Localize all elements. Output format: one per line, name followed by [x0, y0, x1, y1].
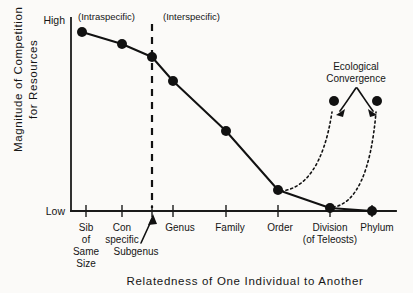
ecological-convergence-annotation: Ecological Convergence — [326, 61, 386, 117]
ecological-convergence-label-line2: Convergence — [326, 73, 386, 84]
point-division — [325, 203, 335, 213]
subgenus-pointer-label: Subgenus — [113, 246, 158, 257]
cat-label-division-line1: Division — [312, 222, 347, 233]
x-axis-title: Relatedness of One Individual to Another — [126, 275, 363, 287]
cat-label-phylum: Phylum — [360, 222, 393, 233]
point-genus — [168, 76, 178, 86]
competition-series-points — [77, 27, 377, 216]
figure-container: High Low Magnitude of Competition for Re… — [0, 0, 413, 293]
point-subgenus — [147, 52, 157, 62]
cat-label-con-line2: specific — [105, 234, 138, 245]
convergence-curve-right — [333, 112, 376, 207]
y-axis-title: Magnitude of Competition for Resources — [12, 7, 39, 152]
y-axis-high-label: High — [43, 14, 65, 26]
point-family — [221, 126, 231, 136]
point-convergence-right — [372, 96, 382, 106]
point-phylum — [367, 206, 377, 216]
point-convergence-left — [329, 96, 339, 106]
interspecific-region-label: (Interspecific) — [163, 11, 220, 22]
competition-series-line — [82, 32, 372, 211]
convergence-arrow-left-stem — [340, 88, 356, 111]
competition-relatedness-chart: High Low Magnitude of Competition for Re… — [0, 0, 413, 293]
intraspecific-region-label: (Intraspecific) — [78, 11, 135, 22]
cat-label-sib-line4: Size — [76, 258, 96, 269]
convergence-endpoints — [329, 96, 382, 106]
ecological-convergence-label-line1: Ecological — [333, 61, 379, 72]
point-con-specific — [117, 39, 127, 49]
ecological-convergence-curves — [281, 112, 376, 207]
y-axis-title-line1: Magnitude of Competition — [12, 7, 24, 152]
cat-label-division-line2: (of Teleosts) — [303, 234, 357, 245]
cat-label-con-line1: Con — [113, 222, 131, 233]
convergence-curve-left — [281, 112, 332, 191]
cat-label-sib-line1: Sib — [79, 222, 94, 233]
cat-label-sib-line2: of — [82, 234, 91, 245]
point-order — [273, 185, 283, 195]
cat-label-order: Order — [267, 222, 293, 233]
subgenus-arrow-head — [148, 214, 157, 225]
point-sib-of-same-size — [77, 27, 87, 37]
y-axis-title-line2: for Resources — [27, 40, 39, 119]
cat-label-genus: Genus — [165, 222, 194, 233]
cat-label-sib-line3: Same — [73, 246, 100, 257]
y-axis-low-label: Low — [46, 205, 66, 217]
convergence-arrow-right-stem — [357, 88, 373, 111]
cat-label-family: Family — [215, 222, 244, 233]
